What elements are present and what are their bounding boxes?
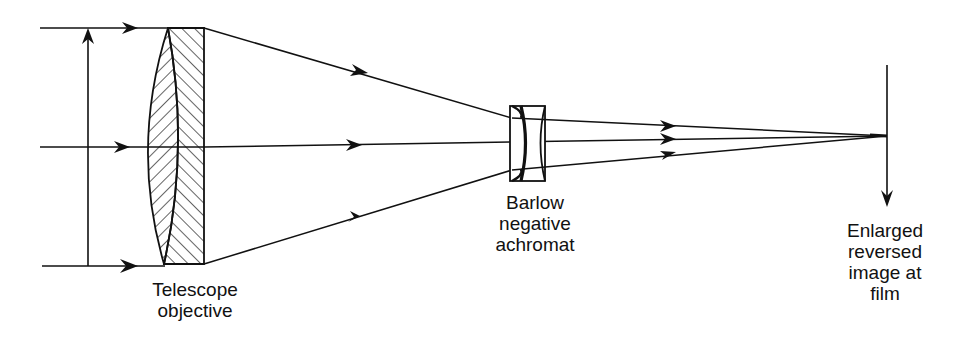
barlow-lens-label: Barlow negative achromat [470,192,600,255]
ray-top-after-barlow [512,118,887,136]
telescope-objective-label: Telescope objective [130,279,260,321]
telescope-objective [145,28,204,264]
film-image-label: Enlarged reversed image at film [820,220,950,304]
